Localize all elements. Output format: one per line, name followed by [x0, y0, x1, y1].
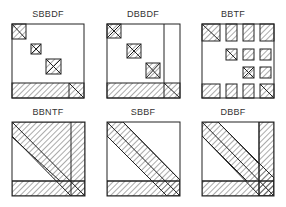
matrix-dbbf [202, 122, 274, 196]
matrix-sbbdf [12, 24, 84, 98]
matrix-sbbf [107, 122, 180, 196]
diagram-canvas [0, 0, 286, 207]
matrix-dbbdf [107, 24, 180, 98]
matrix-bbntf [12, 122, 85, 196]
matrix-bbtf [202, 24, 274, 98]
